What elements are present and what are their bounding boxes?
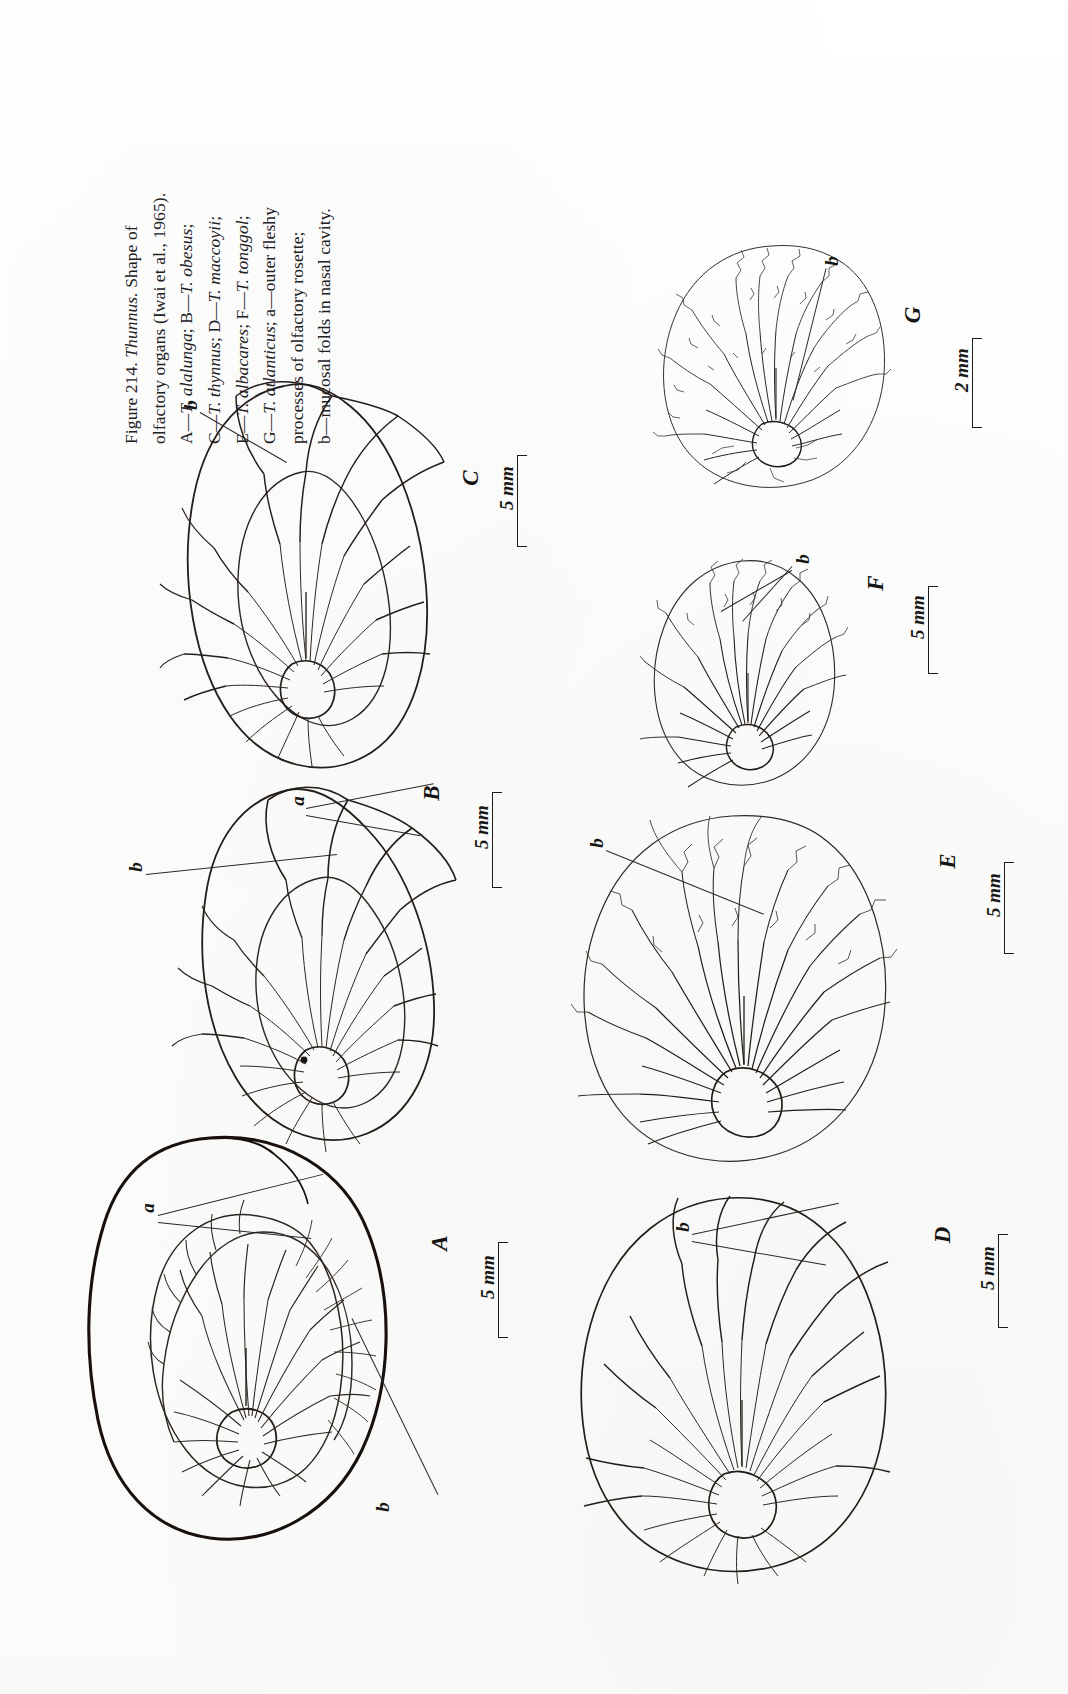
scalebar-C-bar xyxy=(517,455,527,547)
panel-C-drawing xyxy=(160,370,450,790)
figure-page: Figure 214. Thunnus. Shape of olfactory … xyxy=(0,0,1068,1694)
annotation-b-panel-E: b xyxy=(586,838,608,848)
annotation-b-panel-D: b xyxy=(672,1222,694,1232)
panel-B-drawing xyxy=(170,760,470,1180)
panel-E-drawing xyxy=(570,810,900,1160)
annotation-a-panel-B: a xyxy=(287,796,309,806)
scalebar-D-bar xyxy=(998,1234,1008,1328)
scalebar-D-label: 5 mm xyxy=(977,1246,999,1290)
annotation-a-panel-A: a xyxy=(137,1203,159,1213)
scalebar-F-bar xyxy=(928,586,938,674)
panel-F-drawing xyxy=(640,555,850,785)
panel-letter-G: G xyxy=(900,307,926,324)
scalebar-C-label: 5 mm xyxy=(496,466,518,510)
scalebar-B-bar xyxy=(492,792,502,888)
scalebar-A-bar xyxy=(498,1242,508,1338)
scalebar-G-bar xyxy=(972,338,982,428)
scalebar-A-label: 5 mm xyxy=(477,1255,499,1299)
annotation-b-panel-G: b xyxy=(821,256,843,266)
panel-letter-F: F xyxy=(863,575,889,590)
scalebar-E-bar xyxy=(1004,862,1014,954)
panel-D-drawing xyxy=(560,1190,900,1590)
scalebar-B-label: 5 mm xyxy=(471,805,493,849)
caption-line-1: Figure 214. Thunnus. Shape of xyxy=(118,44,146,444)
panel-letter-E: E xyxy=(935,853,961,868)
scalebar-F-label: 5 mm xyxy=(907,595,929,639)
scalebar-E-label: 5 mm xyxy=(983,873,1005,917)
annotation-b-panel-F: b xyxy=(792,554,814,564)
scalebar-G-label: 2 mm xyxy=(951,348,973,392)
panel-A-drawing xyxy=(60,1120,430,1550)
annotation-b-panel-C: b xyxy=(180,400,202,410)
annotation-b-panel-A: b xyxy=(372,1502,394,1512)
panel-letter-C: C xyxy=(458,470,484,485)
panel-letter-D: D xyxy=(930,1227,956,1244)
annotation-b-panel-B: b xyxy=(125,862,147,872)
panel-G-drawing xyxy=(650,240,900,490)
panel-letter-A: A xyxy=(427,1235,453,1250)
